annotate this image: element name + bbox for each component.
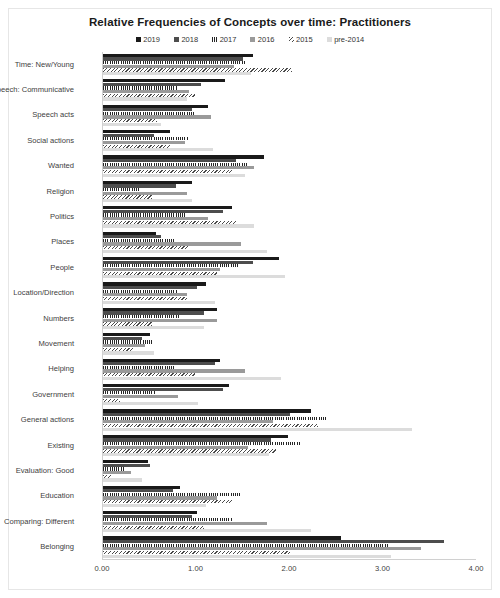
category-group: Numbers xyxy=(103,306,476,331)
legend-item-2018[interactable]: 2018 xyxy=(174,35,198,44)
x-axis-tick: 4.00 xyxy=(469,564,484,573)
category-group: Education xyxy=(103,484,476,509)
legend-item-2015[interactable]: 2015 xyxy=(289,35,313,44)
bar-pre-2014[interactable] xyxy=(103,275,285,278)
y-axis-label: Evaluation: Good xyxy=(0,467,74,475)
legend-swatch-icon xyxy=(212,37,217,42)
y-axis-label: Comparing: Different xyxy=(0,518,74,526)
bar-pre-2014[interactable] xyxy=(103,326,204,329)
x-axis-tick: 0.00 xyxy=(95,564,110,573)
x-axis-tick: 3.00 xyxy=(375,564,390,573)
chart-title: Relative Frequencies of Concepts over ti… xyxy=(0,16,500,28)
bar-pre-2014[interactable] xyxy=(103,123,161,126)
bar-pre-2014[interactable] xyxy=(103,72,251,75)
legend-label: 2017 xyxy=(220,35,237,44)
category-group: Politics xyxy=(103,204,476,229)
chart-screenshot: Relative Frequencies of Concepts over ti… xyxy=(0,0,500,598)
legend-label: pre-2014 xyxy=(334,35,364,44)
category-group: Places xyxy=(103,230,476,255)
legend-label: 2015 xyxy=(296,35,313,44)
y-axis-label: Education xyxy=(0,492,74,500)
legend-label: 2016 xyxy=(258,35,275,44)
bar-pre-2014[interactable] xyxy=(103,504,206,507)
category-group: Comparing: Different xyxy=(103,509,476,534)
legend-swatch-icon xyxy=(327,37,332,42)
y-axis-label: Movement xyxy=(0,340,74,348)
y-axis-label: Religion xyxy=(0,188,74,196)
y-axis-label: General actions xyxy=(0,416,74,424)
category-group: Wanted xyxy=(103,154,476,179)
bar-pre-2014[interactable] xyxy=(103,199,192,202)
x-axis: 0.001.002.003.004.00 xyxy=(102,562,476,578)
category-group: Speech: Communicative xyxy=(103,77,476,102)
plot-area: Time: New/YoungSpeech: CommunicativeSpee… xyxy=(102,52,476,560)
bar-pre-2014[interactable] xyxy=(103,148,213,151)
y-axis-label: Politics xyxy=(0,213,74,221)
category-group: General actions xyxy=(103,408,476,433)
legend-label: 2019 xyxy=(143,35,160,44)
legend-swatch-icon xyxy=(136,37,141,42)
bar-pre-2014[interactable] xyxy=(103,174,245,177)
y-axis-label: Existing xyxy=(0,442,74,450)
bar-pre-2014[interactable] xyxy=(103,402,198,405)
chart-legend: 20192018201720162015pre-2014 xyxy=(0,35,500,44)
category-group: Location/Direction xyxy=(103,281,476,306)
y-axis-label: Location/Direction xyxy=(0,289,74,297)
category-group: Time: New/Young xyxy=(103,52,476,77)
category-group: Helping xyxy=(103,357,476,382)
x-axis-tick: 1.00 xyxy=(188,564,203,573)
category-group: Evaluation: Good xyxy=(103,458,476,483)
bar-pre-2014[interactable] xyxy=(103,97,187,100)
y-axis-label: Wanted xyxy=(0,162,74,170)
y-axis-label: Numbers xyxy=(0,315,74,323)
y-axis-label: Speech: Communicative xyxy=(0,86,74,94)
legend-swatch-icon xyxy=(174,37,179,42)
legend-label: 2018 xyxy=(181,35,198,44)
y-axis-label: People xyxy=(0,264,74,272)
legend-item-2017[interactable]: 2017 xyxy=(212,35,236,44)
y-axis-label: Social actions xyxy=(0,137,74,145)
bar-pre-2014[interactable] xyxy=(103,453,269,456)
bar-pre-2014[interactable] xyxy=(103,351,154,354)
y-axis-label: Belonging xyxy=(0,543,74,551)
bar-pre-2014[interactable] xyxy=(103,250,267,253)
bar-pre-2014[interactable] xyxy=(103,428,412,431)
category-group: Religion xyxy=(103,179,476,204)
legend-item-pre-2014[interactable]: pre-2014 xyxy=(327,35,365,44)
legend-item-2019[interactable]: 2019 xyxy=(136,35,160,44)
bar-pre-2014[interactable] xyxy=(103,224,254,227)
bar-pre-2014[interactable] xyxy=(103,301,215,304)
legend-item-2016[interactable]: 2016 xyxy=(250,35,274,44)
bar-pre-2014[interactable] xyxy=(103,555,391,558)
category-group: Belonging xyxy=(103,535,476,560)
bar-pre-2014[interactable] xyxy=(103,478,142,481)
category-group: Government xyxy=(103,382,476,407)
y-axis-label: Speech acts xyxy=(0,111,74,119)
y-axis-label: Helping xyxy=(0,365,74,373)
category-group: Existing xyxy=(103,433,476,458)
y-axis-label: Government xyxy=(0,391,74,399)
legend-swatch-icon xyxy=(250,37,255,42)
bar-pre-2014[interactable] xyxy=(103,529,311,532)
bar-pre-2014[interactable] xyxy=(103,377,281,380)
category-group: Social actions xyxy=(103,128,476,153)
legend-swatch-icon xyxy=(289,37,294,42)
category-group: Speech acts xyxy=(103,103,476,128)
y-axis-label: Places xyxy=(0,238,74,246)
category-group: Movement xyxy=(103,331,476,356)
x-axis-tick: 2.00 xyxy=(282,564,297,573)
y-axis-label: Time: New/Young xyxy=(0,61,74,69)
category-group: People xyxy=(103,255,476,280)
